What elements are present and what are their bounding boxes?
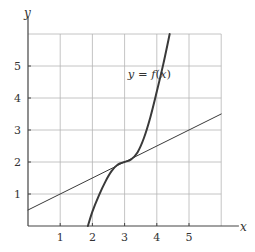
x-tick-label: 3 (121, 231, 128, 244)
y-tick-label: 4 (14, 92, 21, 105)
function-graph: 1234512345 x y y = f(x) (0, 0, 255, 252)
x-axis-label: x (240, 220, 247, 234)
y-tick-label: 5 (14, 60, 21, 73)
x-tick-label: 4 (153, 231, 160, 244)
x-tick-label: 2 (89, 231, 96, 244)
curve-annotation: y = f(x) (127, 67, 171, 81)
y-tick-label: 1 (14, 188, 21, 201)
y-tick-label: 3 (14, 124, 21, 137)
tick-labels: 1234512345 (14, 60, 193, 244)
grid-lines (28, 34, 221, 226)
x-tick-label: 1 (57, 231, 64, 244)
y-tick-label: 2 (14, 156, 21, 169)
y-axis-label: y (23, 6, 31, 20)
x-tick-label: 5 (186, 231, 193, 244)
